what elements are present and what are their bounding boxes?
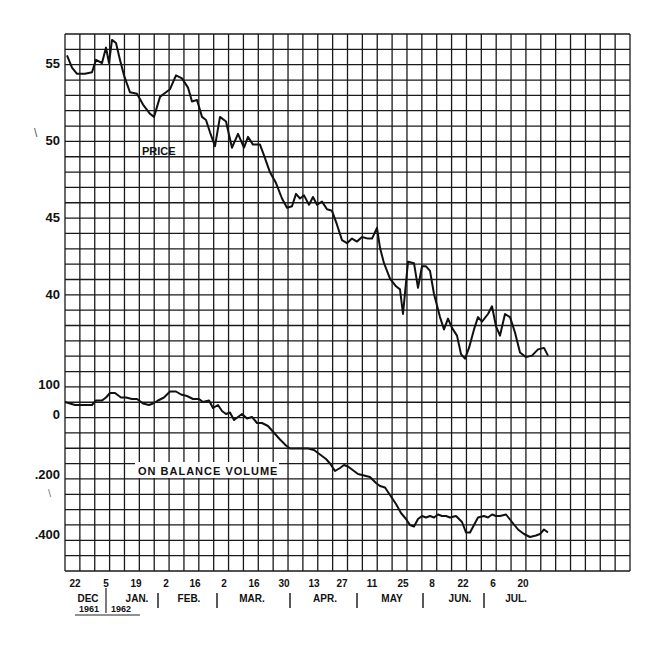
x-tick-label: 20 bbox=[517, 578, 529, 589]
month-label: APR. bbox=[313, 593, 337, 604]
y-tick-obv: 0 bbox=[53, 407, 60, 422]
year-label: 1961 bbox=[79, 604, 99, 614]
month-label: MAY bbox=[381, 593, 403, 604]
x-tick-label: 16 bbox=[189, 578, 201, 589]
x-tick-label: 30 bbox=[278, 578, 290, 589]
month-label: MAR. bbox=[239, 593, 265, 604]
x-tick-label: 19 bbox=[130, 578, 142, 589]
x-tick-label: 6 bbox=[490, 578, 496, 589]
x-tick-label: 11 bbox=[367, 578, 378, 589]
month-label: JUL. bbox=[505, 593, 527, 604]
y-tick-price: 45 bbox=[46, 210, 60, 225]
price-label: PRICE bbox=[142, 145, 176, 157]
x-tick-label: 22 bbox=[69, 578, 81, 589]
x-tick-label: 27 bbox=[336, 578, 348, 589]
y-tick-obv: 100 bbox=[38, 377, 60, 392]
x-tick-label: 2 bbox=[221, 578, 227, 589]
x-axis-labels: 225192162163013271125822620 bbox=[69, 578, 529, 589]
month-labels: DECJAN.FEB.MAR.APR.MAYJUN.JUL.19611962 bbox=[77, 593, 527, 614]
y-tick-obv: .400 bbox=[35, 527, 60, 542]
x-tick-label: 25 bbox=[397, 578, 409, 589]
y-tick-price: 55 bbox=[46, 56, 60, 71]
month-label: DEC bbox=[77, 593, 98, 604]
month-label: JUN. bbox=[449, 593, 472, 604]
month-label: FEB. bbox=[178, 593, 201, 604]
x-tick-label: 8 bbox=[429, 578, 435, 589]
x-tick-label: 5 bbox=[103, 578, 109, 589]
obv-label: ON BALANCE VOLUME bbox=[138, 465, 278, 477]
x-tick-label: 2 bbox=[163, 578, 169, 589]
x-tick-label: 16 bbox=[248, 578, 260, 589]
chart-canvas: 555045401000.200.400 PRICE ON BALANCE VO… bbox=[0, 0, 663, 645]
month-label: JAN. bbox=[126, 593, 149, 604]
x-tick-label: 22 bbox=[457, 578, 469, 589]
stray-mark: \ bbox=[34, 126, 38, 140]
year-label: 1962 bbox=[111, 604, 131, 614]
x-tick-label: 13 bbox=[308, 578, 320, 589]
y-tick-obv: .200 bbox=[35, 467, 60, 482]
stray-mark: \ bbox=[48, 487, 52, 499]
y-tick-price: 40 bbox=[46, 287, 60, 302]
y-axis-labels: 555045401000.200.400 bbox=[35, 56, 60, 542]
y-tick-price: 50 bbox=[46, 133, 60, 148]
